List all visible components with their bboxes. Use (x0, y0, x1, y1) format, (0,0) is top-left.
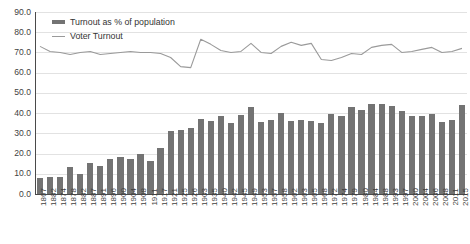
x-tick-slot: 1979 (346, 196, 356, 244)
y-tick-label: 80.0 (0, 28, 31, 37)
x-tick-slot: 1908 (135, 196, 145, 244)
x-tick-slot: 2011 (447, 196, 457, 244)
chart-legend: Turnout as % of population Voter Turnout (52, 16, 175, 44)
legend-line-label: Voter Turnout (70, 32, 123, 41)
x-tick-slot: 1968 (316, 196, 326, 244)
x-tick-slot: 1882 (45, 196, 55, 244)
chart-container: 0.010.020.030.040.050.060.070.080.090.0 … (0, 0, 470, 244)
x-tick-slot: 1974 (336, 196, 346, 244)
y-tick-label: 0.0 (0, 190, 31, 199)
x-tick-slot: 2015 (457, 196, 467, 244)
x-tick-slot: 1958 (276, 196, 286, 244)
x-tick-slot: 1926 (186, 196, 196, 244)
x-tick-slot: 1903 (196, 196, 206, 244)
x-tick-slot: 1942 (226, 196, 236, 244)
legend-item-bar: Turnout as % of population (52, 16, 175, 28)
x-tick-slot: 1887 (85, 196, 95, 244)
x-tick-slot: 1988 (377, 196, 387, 244)
x-tick-slot: 1953 (256, 196, 266, 244)
x-tick-slot: 1997 (397, 196, 407, 244)
x-tick-slot: 1963 (296, 196, 306, 244)
x-tick-slot: 2000 (407, 196, 417, 244)
legend-item-line: Voter Turnout (52, 30, 175, 42)
x-tick-slot: 1917 (156, 196, 166, 244)
y-tick-label: 60.0 (0, 68, 31, 77)
legend-line-swatch-icon (52, 36, 65, 37)
x-axis-labels: 1867188218741878188218871891189619001904… (35, 196, 467, 244)
x-tick-slot: 1984 (367, 196, 377, 244)
x-tick-slot: 1921 (166, 196, 176, 244)
x-tick-slot: 1972 (326, 196, 336, 244)
x-tick-slot: 1957 (266, 196, 276, 244)
x-tick-slot: 1882 (75, 196, 85, 244)
y-tick-label: 90.0 (0, 8, 31, 17)
x-tick-label: 2015 (462, 188, 470, 206)
x-tick-slot: 1891 (95, 196, 105, 244)
x-tick-slot: 2004 (417, 196, 427, 244)
x-tick-slot: 2008 (437, 196, 447, 244)
x-tick-slot: 1980 (357, 196, 367, 244)
x-tick-slot: 1911 (146, 196, 156, 244)
x-tick-slot: 1900 (115, 196, 125, 244)
x-tick-slot: 1878 (65, 196, 75, 244)
x-tick-slot: 1940 (216, 196, 226, 244)
x-tick-slot: 2006 (427, 196, 437, 244)
x-tick-slot: 1925 (176, 196, 186, 244)
y-tick-label: 30.0 (0, 129, 31, 138)
x-tick-slot: 1965 (306, 196, 316, 244)
legend-bar-swatch-icon (52, 20, 65, 24)
y-tick-label: 20.0 (0, 149, 31, 158)
x-tick-slot: 1962 (286, 196, 296, 244)
y-tick-label: 50.0 (0, 88, 31, 97)
y-tick-label: 10.0 (0, 169, 31, 178)
x-tick-slot: 1896 (105, 196, 115, 244)
x-tick-slot: 1867 (35, 196, 45, 244)
y-tick-label: 40.0 (0, 109, 31, 118)
x-tick-slot: 1904 (125, 196, 135, 244)
x-tick-slot: 1993 (387, 196, 397, 244)
y-tick-label: 70.0 (0, 48, 31, 57)
x-tick-slot: 1949 (246, 196, 256, 244)
x-tick-slot: 1935 (206, 196, 216, 244)
legend-bar-label: Turnout as % of population (70, 18, 175, 27)
x-tick-slot: 1874 (55, 196, 65, 244)
x-tick-slot: 1945 (236, 196, 246, 244)
